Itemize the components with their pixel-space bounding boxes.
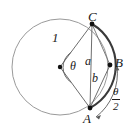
label-chord-a: a: [85, 55, 91, 67]
label-radius-length: 1: [52, 31, 59, 44]
vertex-dot-B: [108, 63, 113, 68]
vertex-dot-A: [88, 106, 93, 111]
label-point-A: A: [83, 112, 91, 125]
vertex-dot-center: [58, 65, 62, 69]
label-point-B: B: [115, 56, 123, 69]
label-arc-angle-theta-over-two: θ 2: [112, 86, 120, 112]
arc-measure-arrowhead-at-A: [96, 115, 101, 120]
fraction-numerator: θ: [112, 86, 120, 98]
label-central-angle-theta: θ: [70, 60, 76, 72]
fraction-denominator: 2: [112, 101, 120, 113]
label-chord-b: b: [92, 72, 98, 84]
label-point-C: C: [88, 10, 97, 23]
geometry-figure: C B A 1 θ a b θ 2: [0, 0, 132, 131]
radius-segment-center-to-A: [60, 67, 90, 108]
